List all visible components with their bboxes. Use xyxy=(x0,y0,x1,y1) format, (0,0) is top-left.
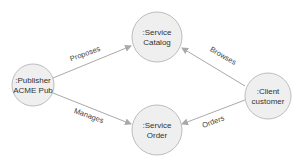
node-catalog-line2: Catalog xyxy=(143,38,171,47)
node-publisher[interactable]: :Publisher ACME Pub xyxy=(12,64,54,106)
edge-proposes: Proposes xyxy=(53,44,131,78)
node-order-line1: :Service xyxy=(143,121,172,130)
edge-label-manages: Manages xyxy=(73,106,105,125)
edge-browses: Browses xyxy=(182,45,245,86)
node-publisher-line1: :Publisher xyxy=(15,76,51,85)
edge-orders: Orders xyxy=(182,100,245,130)
edge-label-browses: Browses xyxy=(209,45,239,67)
node-client-line2: customer xyxy=(252,97,285,106)
node-client[interactable]: :Client customer xyxy=(245,73,291,119)
object-diagram: Proposes Manages Browses Orders :Publish… xyxy=(0,0,300,167)
node-catalog-line1: :Service xyxy=(143,28,172,37)
node-service-catalog[interactable]: :Service Catalog xyxy=(132,12,182,62)
edge-manages: Manages xyxy=(53,93,131,125)
node-publisher-line2: ACME Pub xyxy=(13,86,53,95)
node-order-line2: Order xyxy=(147,131,168,140)
node-service-order[interactable]: :Service Order xyxy=(132,105,182,155)
node-client-line1: :Client xyxy=(257,87,280,96)
